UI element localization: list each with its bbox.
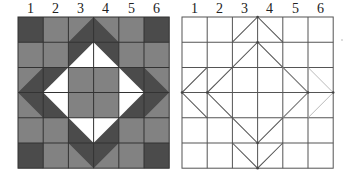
outline-quilt-grid <box>0 0 349 188</box>
stray-mark <box>341 39 343 41</box>
